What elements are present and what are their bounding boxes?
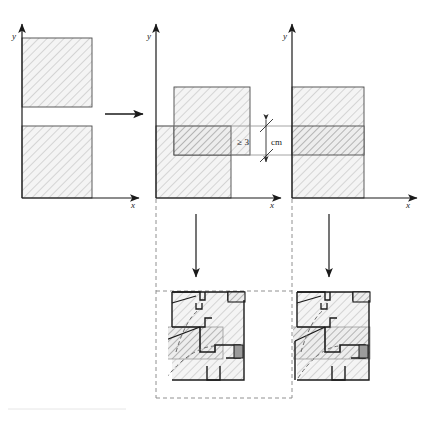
- figure-canvas: y x y x ≥ 3 cm y x: [0, 0, 427, 421]
- dimension-tick-top: [260, 119, 273, 132]
- x-axis-label: x: [269, 200, 274, 210]
- y-axis-label: y: [282, 31, 287, 41]
- lower-rectangle: [22, 126, 92, 198]
- plan-band: [290, 327, 370, 359]
- diagram-svg: y x y x ≥ 3 cm y x: [0, 0, 427, 421]
- floor-plan-detail-right: [290, 292, 370, 380]
- y-axis-label: y: [11, 31, 16, 41]
- dimension-tick-bottom: [260, 149, 273, 162]
- overlap-band: [174, 126, 231, 155]
- plan-top-room: [228, 292, 245, 302]
- floor-plan-detail-left: [155, 292, 245, 380]
- upper-rectangle: [22, 38, 92, 107]
- x-axis-label: x: [130, 200, 135, 210]
- dimension-value: ≥ 3: [237, 137, 249, 147]
- y-axis-label: y: [146, 31, 151, 41]
- overlap-band: [292, 126, 364, 155]
- plan-top-room: [353, 292, 370, 302]
- panel-merged: y x: [282, 24, 417, 210]
- dimension-unit: cm: [271, 137, 282, 147]
- panel-initial: y x: [11, 24, 139, 210]
- plan-solid-block: [359, 345, 368, 358]
- x-axis-label: x: [405, 200, 410, 210]
- panel-overlap: y x ≥ 3 cm: [146, 24, 300, 210]
- plan-solid-block: [234, 345, 243, 358]
